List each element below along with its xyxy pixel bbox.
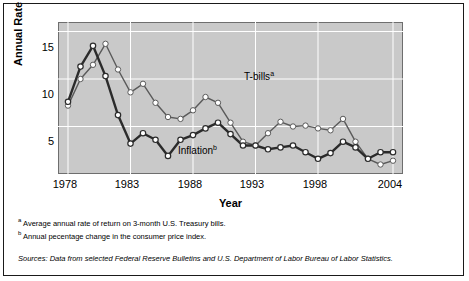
y-axis-title: Annual Rate (%) (12, 0, 24, 66)
data-point-inflation (190, 132, 195, 137)
note-b-marker: b (18, 230, 21, 236)
data-point-t-bills (190, 108, 195, 113)
data-point-t-bills (303, 123, 308, 128)
data-point-t-bills (140, 81, 145, 86)
data-point-inflation (315, 156, 320, 161)
data-point-t-bills (228, 120, 233, 125)
data-point-inflation (78, 64, 83, 69)
figure-notes: a Average annual rate of return on 3-mon… (18, 216, 450, 242)
data-point-inflation (228, 131, 233, 136)
x-tick-2004: 2004 (370, 178, 410, 190)
x-tick-1998: 1998 (295, 178, 335, 190)
data-point-t-bills (390, 158, 395, 163)
data-point-inflation (353, 145, 358, 150)
inflation-annotation: Inflationb (178, 144, 217, 156)
data-point-inflation (253, 143, 258, 148)
tbills-annotation-text: T-bills (244, 71, 270, 82)
figure-frame: Annual Rate (%) 15 10 5 1978 1983 1988 1… (3, 3, 464, 276)
note-b-text: Annual pecentage change in the consumer … (23, 231, 206, 240)
inflation-annotation-sup: b (213, 144, 217, 151)
chart-plot-area: Annual Rate (%) 15 10 5 1978 1983 1988 1… (58, 22, 403, 174)
x-tick-1993: 1993 (232, 178, 272, 190)
data-point-inflation (103, 73, 108, 78)
data-point-t-bills (278, 119, 283, 124)
figure-sources: Sources: Data from selected Federal Rese… (18, 254, 458, 263)
data-point-t-bills (203, 94, 208, 99)
y-tick-15: 15 (20, 41, 54, 53)
data-point-t-bills (165, 114, 170, 119)
tbills-annotation-sup: a (270, 70, 274, 77)
data-point-inflation (278, 145, 283, 150)
data-point-t-bills (353, 139, 358, 144)
tbills-annotation: T-billsa (244, 70, 274, 82)
inflation-annotation-text: Inflation (178, 145, 213, 156)
data-point-inflation (303, 150, 308, 155)
data-point-t-bills (115, 67, 120, 72)
data-point-t-bills (290, 124, 295, 129)
data-point-t-bills (215, 100, 220, 105)
data-point-inflation (203, 126, 208, 131)
data-point-inflation (290, 143, 295, 148)
data-point-inflation (240, 143, 245, 148)
data-point-t-bills (128, 90, 133, 95)
data-point-inflation (128, 141, 133, 146)
note-a-text: Average annual rate of return on 3-month… (23, 219, 225, 228)
data-point-t-bills (265, 131, 270, 136)
data-point-inflation (340, 139, 345, 144)
data-point-t-bills (78, 76, 83, 81)
x-tick-1983: 1983 (107, 178, 147, 190)
y-tick-10: 10 (20, 88, 54, 100)
data-point-inflation (365, 156, 370, 161)
data-point-t-bills (178, 116, 183, 121)
data-point-t-bills (378, 162, 383, 167)
data-point-inflation (165, 153, 170, 158)
data-point-inflation (65, 99, 70, 104)
data-point-inflation (215, 120, 220, 125)
data-point-inflation (140, 131, 145, 136)
x-tick-1978: 1978 (45, 178, 85, 190)
data-point-inflation (178, 137, 183, 142)
x-axis-title: Year (58, 197, 403, 209)
data-point-inflation (390, 150, 395, 155)
data-point-inflation (378, 150, 383, 155)
note-a: a Average annual rate of return on 3-mon… (18, 216, 450, 229)
data-point-inflation (328, 150, 333, 155)
data-point-inflation (153, 137, 158, 142)
data-point-t-bills (153, 100, 158, 105)
data-point-inflation (265, 147, 270, 152)
data-point-inflation (90, 43, 95, 48)
data-point-inflation (115, 112, 120, 117)
y-tick-5: 5 (20, 135, 54, 147)
series-canvas (58, 22, 403, 174)
series-line-t-bills (68, 44, 393, 165)
data-point-t-bills (90, 62, 95, 67)
data-point-t-bills (315, 126, 320, 131)
data-point-t-bills (328, 128, 333, 133)
data-point-t-bills (340, 116, 345, 121)
x-tick-1988: 1988 (170, 178, 210, 190)
note-b: b Annual pecentage change in the consume… (18, 229, 450, 242)
data-point-t-bills (103, 41, 108, 46)
note-a-marker: a (18, 217, 21, 223)
